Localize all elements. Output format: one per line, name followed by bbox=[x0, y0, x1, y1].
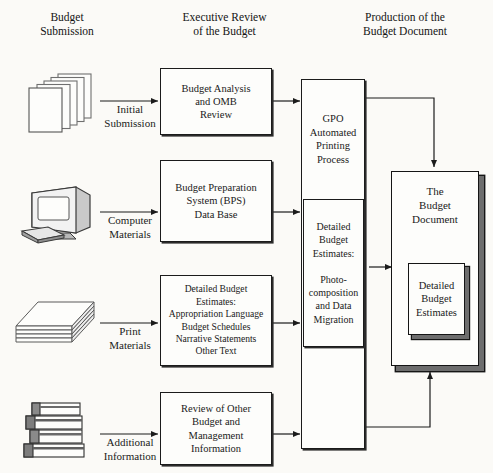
arrow-label-computer-materials: Computer Materials bbox=[94, 214, 166, 241]
arrow-gpo-to-document-bottom bbox=[365, 372, 430, 427]
box-review-of-other[interactable]: Review of Other Budget and Management In… bbox=[160, 392, 272, 465]
book-stack-icon bbox=[18, 400, 98, 462]
arrow-gpo-to-document-top bbox=[365, 98, 434, 167]
arrow-label-additional-information: Additional Information bbox=[90, 436, 170, 463]
box-photocomposition[interactable]: Detailed Budget Estimates: Photo- compos… bbox=[303, 199, 364, 347]
doc-budget-document-label: The Budget Document bbox=[391, 184, 479, 226]
box-budget-preparation[interactable]: Budget Preparation System (BPS) Data Bas… bbox=[160, 160, 272, 242]
box-detailed-budget-estimates[interactable]: Detailed Budget Estimates: Appropriation… bbox=[160, 275, 272, 366]
box-budget-analysis[interactable]: Budget Analysis and OMB Review bbox=[160, 68, 272, 135]
box-gpo-label: GPO Automated Printing Process bbox=[301, 112, 365, 166]
desktop-computer-icon bbox=[18, 183, 98, 249]
stacked-sheets-icon bbox=[20, 72, 96, 138]
arrow-label-initial-submission: Initial Submission bbox=[94, 103, 166, 130]
doc-detailed-budget-estimates[interactable]: Detailed Budget Estimates bbox=[408, 263, 465, 335]
arrow-label-print-materials: Print Materials bbox=[94, 325, 166, 352]
paper-ream-icon bbox=[14, 296, 100, 352]
